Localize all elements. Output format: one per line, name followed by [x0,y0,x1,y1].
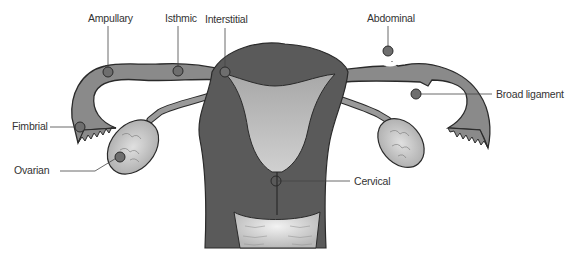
anatomy-illustration [0,0,565,261]
label-interstitial: Interstitial [205,13,248,25]
right-ovary [368,109,433,176]
label-ovarian: Ovarian [14,164,49,176]
site-fimbrial [75,122,85,132]
site-abdominal [383,46,393,56]
site-interstitial [220,67,230,77]
site-ovarian [115,152,125,162]
label-fimbrial: Fimbrial [12,120,48,132]
label-isthmic: Isthmic [165,12,197,24]
left-ovary [97,110,169,184]
site-ampullary [103,67,113,77]
site-isthmic [173,66,183,76]
label-cervical: Cervical [354,175,390,187]
label-broad-ligament: Broad ligament [496,88,564,100]
site-broad-ligament [411,89,421,99]
ectopic-pregnancy-diagram: Ampullary Isthmic Interstitial Abdominal… [0,0,565,261]
label-ampullary: Ampullary [88,12,133,24]
label-abdominal: Abdominal [367,12,415,24]
